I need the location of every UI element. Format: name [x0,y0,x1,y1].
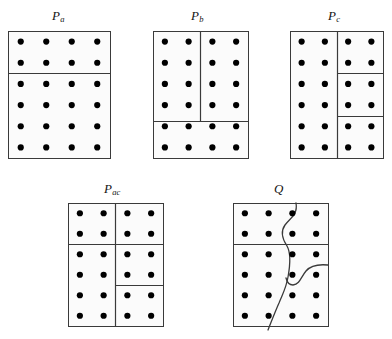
dot [299,123,305,129]
dot [69,144,75,150]
dot [345,102,351,108]
dot [162,123,168,129]
dot [18,60,24,66]
dot [69,38,75,44]
dot [345,81,351,87]
dot [69,102,75,108]
dot [94,102,100,108]
dot [148,272,154,278]
dot [313,272,319,278]
dot [209,144,215,150]
dot [289,251,295,257]
panel-label-Pa: Pa [52,8,64,24]
dot [233,102,239,108]
dot [43,123,49,129]
dot [368,123,374,129]
panel-Pc [291,32,384,159]
dot [266,292,272,298]
dot [299,102,305,108]
dot [289,313,295,319]
dot [313,210,319,216]
dot [368,102,374,108]
dot [242,251,248,257]
dot [162,60,168,66]
dot [18,81,24,87]
dot [43,38,49,44]
panel-label-Pac: Pac [104,181,120,197]
dot [94,38,100,44]
dot [313,251,319,257]
panel-label-Pc: Pc [328,8,340,24]
dot [242,292,248,298]
dot [322,102,328,108]
panel-box-Q [234,204,329,327]
dot [186,144,192,150]
dot [242,313,248,319]
dot [101,292,107,298]
dot [209,60,215,66]
dot [124,231,130,237]
panel-label-Q: Q [274,181,284,197]
dot [43,144,49,150]
dot [299,38,305,44]
dot [266,251,272,257]
dot [345,144,351,150]
partition-diagram-svg [0,0,392,339]
panel-label-Pb: Pb [191,8,203,24]
dot [345,60,351,66]
dot [345,123,351,129]
dot [186,102,192,108]
dot [162,102,168,108]
dot [186,38,192,44]
dot [368,38,374,44]
dot [209,102,215,108]
dot [209,123,215,129]
dot [162,81,168,87]
dot [77,292,83,298]
panel-box-Pa [9,32,111,159]
dot [94,60,100,66]
dot [18,144,24,150]
dot [124,272,130,278]
dot [233,123,239,129]
dot [69,60,75,66]
dot [94,81,100,87]
dot [299,81,305,87]
dot [368,60,374,66]
dot [43,60,49,66]
dot [233,38,239,44]
dot [322,144,328,150]
panel-Q [234,203,329,330]
dot [124,251,130,257]
dot [69,123,75,129]
dot [148,313,154,319]
dot [101,272,107,278]
dot [368,81,374,87]
dot [299,144,305,150]
dot [242,272,248,278]
dot [124,292,130,298]
dot [101,251,107,257]
dot [266,313,272,319]
dot [242,210,248,216]
dot [322,38,328,44]
dot [77,272,83,278]
dot [289,292,295,298]
dot [186,81,192,87]
dot [209,81,215,87]
dot [242,231,248,237]
dot [69,81,75,87]
dot [101,210,107,216]
dot [148,231,154,237]
dot [162,144,168,150]
dot [233,81,239,87]
dot [266,231,272,237]
dot [209,38,215,44]
dot [94,123,100,129]
dot [43,81,49,87]
panel-Pac [69,204,164,327]
dot [186,60,192,66]
dot [124,313,130,319]
dot [266,210,272,216]
dot [322,81,328,87]
